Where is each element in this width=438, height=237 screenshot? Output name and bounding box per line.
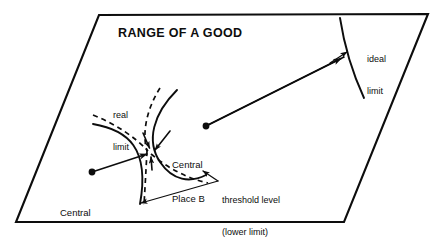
real-limit-line-1: real [113, 110, 129, 121]
ideal-limit-line-1: ideal [367, 54, 386, 65]
ideal-limit-line-2: limit [367, 86, 386, 97]
real-limit-label: real limit [113, 89, 129, 174]
page-title: RANGE OF A GOOD [118, 26, 242, 41]
convergence-arrow-from-below [151, 157, 152, 170]
central-place-b-line-1: Central [172, 159, 205, 170]
central-place-a-dot [89, 169, 96, 176]
central-place-b-line-2: Place B [172, 193, 205, 204]
threshold-level-label: threshold level (lower limit) [222, 174, 280, 237]
real-limit-line-2: limit [113, 142, 129, 153]
central-place-b-label: Central Place B [172, 137, 205, 227]
threshold-line-1: threshold level [222, 195, 280, 206]
central-place-a-label: Central Place A [60, 185, 92, 237]
central-place-a-line-1: Central [60, 207, 92, 218]
central-place-b-dot [203, 123, 210, 130]
ideal-limit-label: ideal limit [367, 33, 386, 118]
threshold-line-2: (lower limit) [222, 227, 280, 237]
range-of-a-good-diagram: RANGE OF A GOOD ideal limit real limit C… [0, 0, 438, 237]
